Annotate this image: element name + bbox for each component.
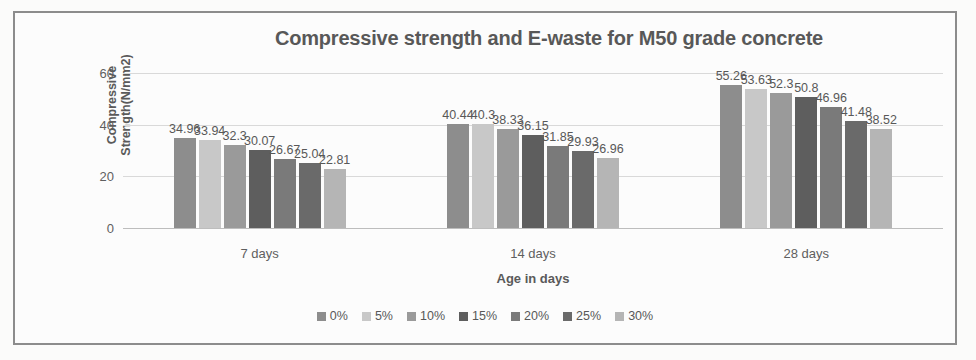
legend-label: 0% xyxy=(330,309,348,323)
bar[interactable] xyxy=(820,107,842,228)
bar[interactable] xyxy=(795,97,817,228)
legend-item[interactable]: 0% xyxy=(317,309,348,323)
bar-slot: 50.8 xyxy=(795,73,817,228)
bar-groups: 34.9633.9432.330.0726.6725.0422.817 days… xyxy=(123,73,943,228)
legend-item[interactable]: 10% xyxy=(407,309,445,323)
bar[interactable] xyxy=(572,151,594,228)
legend-swatch-icon xyxy=(563,312,572,321)
legend-swatch-icon xyxy=(615,312,624,321)
legend-swatch-icon xyxy=(511,312,520,321)
bar-slot: 55.26 xyxy=(720,73,742,228)
bar-slot: 52.3 xyxy=(770,73,792,228)
bar-slot: 46.96 xyxy=(820,73,842,228)
legend-swatch-icon xyxy=(407,312,416,321)
bar-slot: 26.96 xyxy=(597,73,619,228)
bar-group: 55.2653.6352.350.846.9641.4838.5228 days xyxy=(670,73,943,228)
bar-slot: 25.04 xyxy=(299,73,321,228)
bar[interactable] xyxy=(447,124,469,228)
legend-item[interactable]: 20% xyxy=(511,309,549,323)
bar-value-label: 22.81 xyxy=(319,153,350,167)
bar[interactable] xyxy=(597,158,619,228)
y-axis-tick-label: 40 xyxy=(100,117,114,132)
bar-value-label: 38.52 xyxy=(866,113,897,127)
legend-label: 20% xyxy=(524,309,549,323)
bar[interactable] xyxy=(199,140,221,228)
bar-value-label: 26.96 xyxy=(592,142,623,156)
legend-swatch-icon xyxy=(362,312,371,321)
legend-item[interactable]: 15% xyxy=(459,309,497,323)
bar[interactable] xyxy=(249,150,271,228)
legend-label: 15% xyxy=(472,309,497,323)
plot-area: 0204060 34.9633.9432.330.0726.6725.0422.… xyxy=(123,73,943,228)
bar-group: 40.4440.338.3336.1531.8529.9326.9614 day… xyxy=(396,73,669,228)
y-axis-tick-label: 0 xyxy=(107,221,114,236)
chart-frame: Compressive strength and E-waste for M50… xyxy=(13,11,957,345)
bar-slot: 32.3 xyxy=(224,73,246,228)
bar[interactable] xyxy=(745,89,767,228)
bar[interactable] xyxy=(324,169,346,228)
legend-item[interactable]: 25% xyxy=(563,309,601,323)
y-axis-tick-label: 20 xyxy=(100,169,114,184)
bar[interactable] xyxy=(522,135,544,228)
bar-slot: 53.63 xyxy=(745,73,767,228)
x-axis-tick-label: 28 days xyxy=(784,246,830,261)
chart-title: Compressive strength and E-waste for M50… xyxy=(15,27,955,50)
bar[interactable] xyxy=(770,93,792,228)
bar-slot: 26.67 xyxy=(274,73,296,228)
bar-value-label: 52.3 xyxy=(769,77,793,91)
legend-swatch-icon xyxy=(317,312,326,321)
x-axis-tick-label: 7 days xyxy=(241,246,279,261)
bar-slot: 41.48 xyxy=(845,73,867,228)
bar[interactable] xyxy=(472,124,494,228)
bar[interactable] xyxy=(547,146,569,228)
chart-legend: 0%5%10%15%20%25%30% xyxy=(15,309,955,323)
bar[interactable] xyxy=(174,138,196,228)
legend-label: 30% xyxy=(628,309,653,323)
bar-slot: 40.3 xyxy=(472,73,494,228)
bar-value-label: 53.63 xyxy=(741,73,772,87)
bar[interactable] xyxy=(870,129,892,229)
bar-slot: 34.96 xyxy=(174,73,196,228)
legend-label: 10% xyxy=(420,309,445,323)
bar-slot: 31.85 xyxy=(547,73,569,228)
bar[interactable] xyxy=(720,85,742,228)
bar-slot: 30.07 xyxy=(249,73,271,228)
bar-group: 34.9633.9432.330.0726.6725.0422.817 days xyxy=(123,73,396,228)
bar-value-label: 33.94 xyxy=(194,124,225,138)
bar-slot: 36.15 xyxy=(522,73,544,228)
bar-value-label: 40.44 xyxy=(442,108,473,122)
legend-item[interactable]: 5% xyxy=(362,309,393,323)
scanned-page: Compressive strength and E-waste for M50… xyxy=(0,0,976,360)
bar[interactable] xyxy=(299,163,321,228)
legend-label: 25% xyxy=(576,309,601,323)
axis-baseline xyxy=(123,228,943,229)
bar-value-label: 46.96 xyxy=(816,91,847,105)
bar[interactable] xyxy=(497,129,519,228)
legend-item[interactable]: 30% xyxy=(615,309,653,323)
bar-slot: 22.81 xyxy=(324,73,346,228)
legend-swatch-icon xyxy=(459,312,468,321)
bar-slot: 33.94 xyxy=(199,73,221,228)
legend-label: 5% xyxy=(375,309,393,323)
bar[interactable] xyxy=(224,145,246,228)
bar[interactable] xyxy=(274,159,296,228)
y-axis-tick-label: 60 xyxy=(100,66,114,81)
bar-slot: 38.52 xyxy=(870,73,892,228)
bar-slot: 29.93 xyxy=(572,73,594,228)
bar[interactable] xyxy=(845,121,867,228)
bar-slot: 38.33 xyxy=(497,73,519,228)
x-axis-title: Age in days xyxy=(123,271,943,286)
x-axis-tick-label: 14 days xyxy=(510,246,556,261)
bar-slot: 40.44 xyxy=(447,73,469,228)
